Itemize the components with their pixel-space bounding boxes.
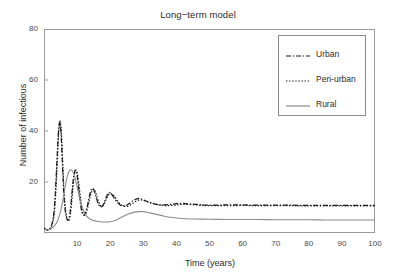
legend-swatch-solid xyxy=(285,98,311,110)
y-tick-label: 60 xyxy=(12,75,38,84)
x-tick-label: 20 xyxy=(97,239,123,248)
chart-legend: UrbanPeri-urbanRural xyxy=(278,35,366,116)
chart-title: Long−term model xyxy=(0,9,396,20)
series-line-urban xyxy=(44,122,375,230)
legend-swatch-dotted xyxy=(285,73,311,85)
x-tick-label: 100 xyxy=(362,239,388,248)
series-line-rural xyxy=(44,170,375,230)
y-tick-label: 20 xyxy=(12,177,38,186)
x-axis-label: Time (years) xyxy=(44,258,376,268)
legend-item-urban[interactable]: Urban xyxy=(279,44,367,64)
y-tick-label: 40 xyxy=(12,126,38,135)
legend-label: Peri-urban xyxy=(316,74,356,84)
x-tick-label: 30 xyxy=(130,239,156,248)
x-tick-label: 60 xyxy=(230,239,256,248)
x-tick-label: 50 xyxy=(197,239,223,248)
series-line-peri-urban xyxy=(44,121,375,230)
x-tick-label: 90 xyxy=(329,239,355,248)
x-tick-label: 70 xyxy=(263,239,289,248)
legend-label: Rural xyxy=(316,99,336,109)
data-series-group xyxy=(44,121,375,230)
legend-item-rural[interactable]: Rural xyxy=(279,94,367,114)
y-tick-label: 80 xyxy=(12,24,38,33)
legend-item-peri-urban[interactable]: Peri-urban xyxy=(279,69,367,89)
legend-swatch-dash-dot xyxy=(285,48,311,60)
chart-figure: Long−term model Number of infectious Tim… xyxy=(0,0,396,278)
x-tick-label: 10 xyxy=(64,239,90,248)
x-tick-label: 80 xyxy=(296,239,322,248)
x-tick-label: 40 xyxy=(163,239,189,248)
legend-label: Urban xyxy=(316,49,339,59)
